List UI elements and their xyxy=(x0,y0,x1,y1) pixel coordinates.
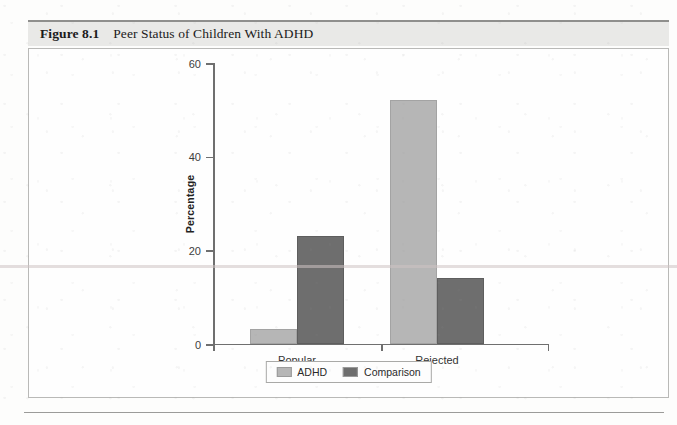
bar-comparison-popular xyxy=(297,236,344,344)
bar-adhd-popular xyxy=(250,329,297,343)
bar-comparison-rejected xyxy=(437,278,484,344)
y-tick-mark xyxy=(206,63,214,65)
chart-legend: ADHD Comparison xyxy=(265,361,431,383)
figure-title: Peer Status of Children With ADHD xyxy=(113,26,313,41)
y-tick-label: 20 xyxy=(189,245,201,257)
bar-adhd-rejected xyxy=(390,100,437,344)
legend-swatch-icon xyxy=(276,367,291,377)
y-axis-line xyxy=(213,63,215,346)
y-tick-40: 40 xyxy=(206,157,214,159)
x-tick-left xyxy=(213,344,215,351)
figure-caption: Figure 8.1Peer Status of Children With A… xyxy=(28,26,313,42)
figure-number: Figure 8.1 xyxy=(40,26,99,41)
y-tick-label: 60 xyxy=(189,58,201,70)
y-tick-mark xyxy=(206,250,214,252)
plot-area: Percentage 0 20 40 60 Popular xyxy=(185,63,549,345)
x-tick-right xyxy=(548,344,550,351)
y-tick-label: 40 xyxy=(189,151,201,163)
y-tick-20: 20 xyxy=(206,250,214,252)
legend-item-adhd: ADHD xyxy=(276,366,327,378)
legend-label: ADHD xyxy=(297,366,327,378)
x-tick-middle xyxy=(381,344,383,351)
y-tick-label: 0 xyxy=(195,339,201,351)
legend-label: Comparison xyxy=(364,366,421,378)
figure-caption-band: Figure 8.1Peer Status of Children With A… xyxy=(28,20,669,46)
chart-frame: Percentage 0 20 40 60 Popular xyxy=(28,48,669,398)
y-axis-title: Percentage xyxy=(184,175,196,234)
legend-swatch-icon xyxy=(343,367,358,377)
legend-item-comparison: Comparison xyxy=(343,366,421,378)
y-tick-60: 60 xyxy=(206,63,214,65)
y-tick-mark xyxy=(206,157,214,159)
page-bottom-rule xyxy=(24,412,664,413)
